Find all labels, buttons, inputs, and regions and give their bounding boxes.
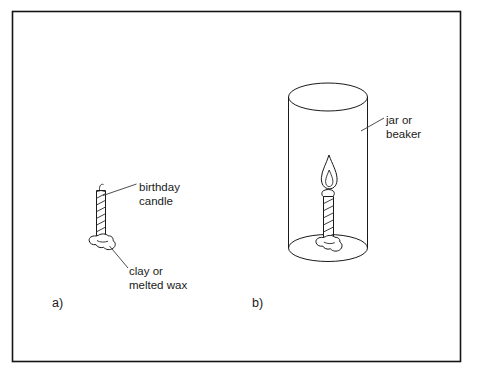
panel-letter-b: b) bbox=[252, 296, 263, 310]
candle-a-wick bbox=[99, 184, 103, 190]
panel-a: a) birthday candle clay or melted wax bbox=[52, 181, 187, 310]
leader-jar bbox=[361, 118, 384, 131]
svg-text:candle: candle bbox=[139, 195, 173, 207]
candle-b-flame-outer bbox=[321, 155, 337, 189]
label-birthday-candle: birthday candle bbox=[139, 181, 180, 207]
candle-diagram-canvas: a) birthday candle clay or melted wax bbox=[0, 0, 478, 376]
candle-a-body bbox=[97, 191, 106, 241]
leader-clay bbox=[110, 246, 129, 268]
label-clay-or-melted-wax: clay or melted wax bbox=[129, 265, 187, 291]
clay-b-blob bbox=[316, 235, 342, 251]
leader-birthday-candle bbox=[103, 184, 137, 196]
panel-b: b) jar or beaker bbox=[252, 83, 421, 310]
figure-frame bbox=[13, 12, 461, 362]
clay-a-blob bbox=[89, 234, 115, 250]
candle-b-body bbox=[324, 197, 334, 242]
svg-text:beaker: beaker bbox=[386, 128, 421, 140]
svg-text:melted wax: melted wax bbox=[129, 279, 187, 291]
label-jar-or-beaker: jar or beaker bbox=[385, 114, 421, 140]
svg-text:clay or: clay or bbox=[129, 265, 163, 277]
svg-text:jar or: jar or bbox=[385, 114, 412, 126]
figure-root: a) birthday candle clay or melted wax bbox=[0, 0, 478, 376]
jar-top-ellipse bbox=[289, 83, 368, 111]
svg-text:birthday: birthday bbox=[139, 181, 180, 193]
panel-letter-a: a) bbox=[52, 296, 63, 310]
